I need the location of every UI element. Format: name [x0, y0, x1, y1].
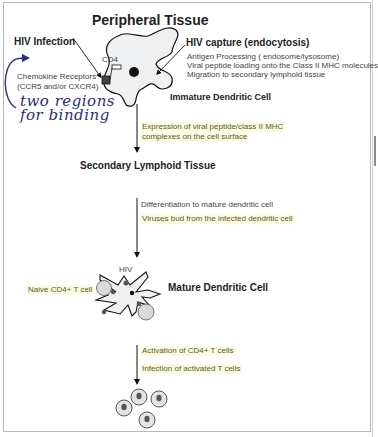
transition1-line1: Expression of viral peptide/class II MHC	[141, 122, 284, 132]
infected-t-cells-icon	[116, 389, 167, 428]
hiv-label: HIV	[119, 265, 132, 275]
transition1-line2: complexes on the cell surface	[141, 132, 248, 142]
handwritten-note-line2: for binding	[20, 108, 110, 123]
transition3-line2: Infection of activated T cells	[141, 364, 241, 374]
chemokine-label-line1: Chemokine Receptors	[17, 72, 96, 82]
transition2-line1: Differentiation to mature dendritic cell	[141, 200, 273, 210]
immature-dendritic-cell-label: Immature Dendritic Cell	[170, 92, 271, 102]
capture-step-3: Migration to secondary lymphoid tissue	[187, 70, 325, 80]
chemokine-label-line2: (CCR5 and/or CXCR4)	[17, 82, 98, 92]
hiv-infection-arrow	[73, 38, 100, 76]
naive-cd4-t-cell-label: Naive CD4+ T cell	[27, 285, 93, 295]
transition2-line2: Viruses bud from the infected dendritic …	[141, 214, 294, 224]
title-peripheral-tissue: Peripheral Tissue	[92, 12, 208, 28]
mature-dendritic-cell-icon	[96, 272, 160, 320]
hiv-capture-label: HIV capture (endocytosis)	[186, 37, 309, 48]
hiv-infection-label: HIV Infection	[14, 36, 75, 47]
mature-dendritic-cell-label: Mature Dendritic Cell	[168, 282, 268, 293]
transition3-line1: Activation of CD4+ T cells	[141, 346, 235, 356]
cd4-label: CD4	[102, 55, 118, 65]
secondary-lymphoid-tissue-title: Secondary Lymphoid Tissue	[80, 160, 216, 171]
